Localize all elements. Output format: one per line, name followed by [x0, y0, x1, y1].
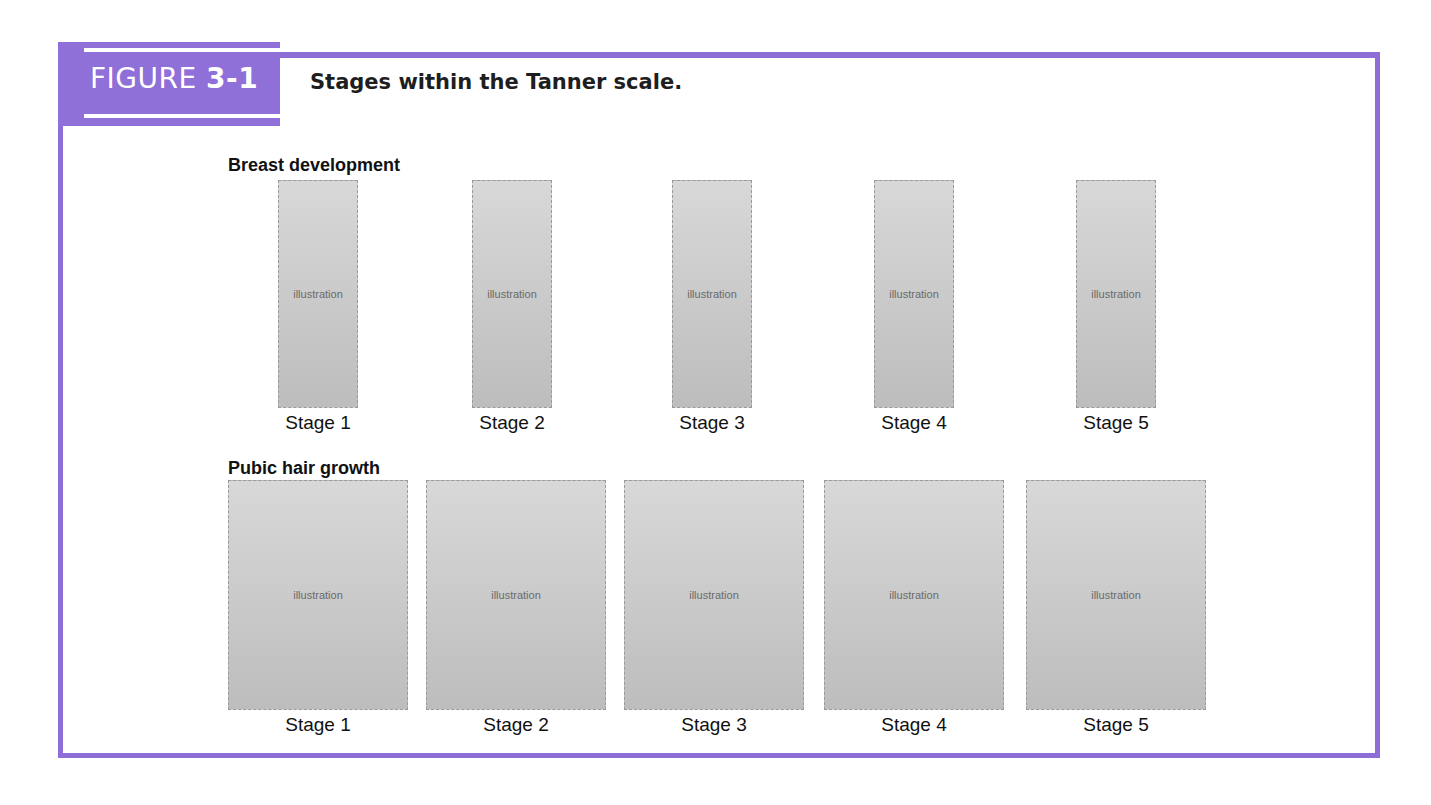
stage-panel: illustrationStage 4: [824, 480, 1004, 736]
stage-illustration-placeholder: illustration: [672, 180, 752, 408]
stage-panel: illustrationStage 5: [1076, 180, 1156, 434]
stage-panel: illustrationStage 3: [624, 480, 804, 736]
stage-label: Stage 5: [1083, 412, 1149, 434]
stage-label: Stage 4: [881, 412, 947, 434]
tab-divider: [84, 114, 280, 118]
stage-illustration-placeholder: illustration: [624, 480, 804, 710]
stage-label: Stage 3: [679, 412, 745, 434]
figure-caption: Stages within the Tanner scale.: [310, 70, 682, 94]
stage-illustration-placeholder: illustration: [874, 180, 954, 408]
stage-label: Stage 2: [479, 412, 545, 434]
stage-illustration-placeholder: illustration: [1026, 480, 1206, 710]
stage-label: Stage 1: [285, 714, 351, 736]
stage-panel: illustrationStage 2: [472, 180, 552, 434]
stage-label: Stage 3: [681, 714, 747, 736]
tab-divider: [84, 48, 280, 52]
stage-panel: illustrationStage 5: [1026, 480, 1206, 736]
stage-panel: illustrationStage 1: [278, 180, 358, 434]
stage-illustration-placeholder: illustration: [472, 180, 552, 408]
stage-panel: illustrationStage 4: [874, 180, 954, 434]
stage-label: Stage 5: [1083, 714, 1149, 736]
stage-label: Stage 1: [285, 412, 351, 434]
figure-number: FIGURE 3-1: [90, 62, 258, 95]
figure-tab: FIGURE 3-1: [58, 42, 280, 126]
stage-illustration-placeholder: illustration: [1076, 180, 1156, 408]
stage-illustration-placeholder: illustration: [228, 480, 408, 710]
stage-panel: illustrationStage 3: [672, 180, 752, 434]
section-title-breast: Breast development: [228, 155, 400, 176]
stage-label: Stage 2: [483, 714, 549, 736]
stage-illustration-placeholder: illustration: [426, 480, 606, 710]
stage-illustration-placeholder: illustration: [278, 180, 358, 408]
stage-panel: illustrationStage 1: [228, 480, 408, 736]
section-title-pubic: Pubic hair growth: [228, 458, 380, 479]
stage-panel: illustrationStage 2: [426, 480, 606, 736]
stage-label: Stage 4: [881, 714, 947, 736]
stage-illustration-placeholder: illustration: [824, 480, 1004, 710]
